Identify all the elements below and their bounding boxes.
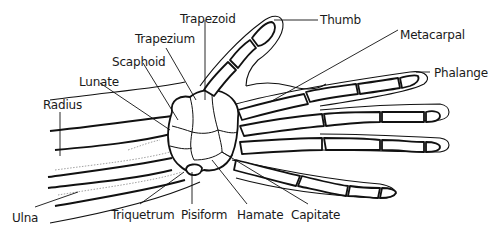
label-trapezium: Trapezium xyxy=(135,32,195,46)
label-hamate: Hamate xyxy=(237,208,283,222)
label-ulna: Ulna xyxy=(12,211,38,225)
label-capitate: Capitate xyxy=(291,208,340,222)
label-phalange: Phalange xyxy=(434,66,488,80)
label-triquetrum: Triquetrum xyxy=(111,208,174,222)
label-metacarpal: Metacarpal xyxy=(400,28,465,42)
label-pisiform: Pisiform xyxy=(181,208,227,222)
label-trapezoid: Trapezoid xyxy=(180,12,236,26)
label-scaphoid: Scaphoid xyxy=(112,55,165,69)
label-thumb: Thumb xyxy=(320,13,361,27)
label-radius: Radius xyxy=(43,98,82,112)
label-lunate: Lunate xyxy=(79,75,119,89)
